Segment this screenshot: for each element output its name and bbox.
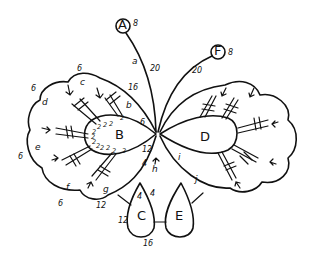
chain-c-count: 6	[77, 64, 82, 73]
chain-b-label: b	[126, 100, 132, 110]
svg-text:6: 6	[140, 118, 145, 127]
ring-c-count-2: 4	[150, 189, 155, 198]
ring-a-count: 8	[133, 19, 138, 28]
chain-g-label: g	[103, 184, 109, 194]
chain-d-count: 6	[31, 84, 36, 93]
chain-j-label: j	[193, 174, 198, 184]
svg-text:2: 2	[109, 120, 113, 128]
right-chain-cloud	[160, 82, 296, 192]
ring-f-label: F	[214, 43, 221, 58]
chain-i-label: i	[178, 152, 181, 162]
chain-h-label: h	[152, 164, 158, 174]
svg-text:2: 2	[112, 147, 116, 155]
chain-e-count: 6	[18, 152, 23, 161]
chain-f-count: 20	[192, 66, 202, 75]
chain-a-count: 20	[150, 64, 160, 73]
chain-e-label: e	[35, 142, 41, 152]
ring-e-label: E	[175, 208, 183, 223]
svg-text:2: 2	[100, 144, 104, 152]
diagram-canvas: A F B D C E 8 8 a 20 20 16 b 6 c 6 d 6 e…	[0, 0, 312, 258]
svg-text:2: 2	[97, 123, 101, 131]
ring-b-label: B	[115, 127, 124, 142]
chain-c-label: c	[80, 77, 85, 87]
ring-d-crosses	[202, 104, 261, 170]
svg-text:4: 4	[142, 159, 147, 168]
ring-c-count-3: 12	[118, 216, 128, 225]
ring-d-label: D	[200, 129, 210, 144]
chain-a-label: a	[132, 56, 138, 66]
tatting-diagram: A F B D C E 8 8 a 20 20 16 b 6 c 6 d 6 e…	[0, 0, 312, 258]
svg-text:12: 12	[142, 145, 152, 154]
connector-e-chain	[192, 193, 203, 203]
chain-d-label: d	[42, 97, 48, 107]
ring-a-label: A	[118, 17, 127, 32]
chain-f-count: 6	[58, 199, 63, 208]
ring-b-spokes	[56, 95, 122, 180]
ring-f-count: 8	[228, 48, 233, 57]
svg-text:2: 2	[120, 114, 124, 122]
chain-g-count: 12	[96, 201, 106, 210]
chain-b-count: 16	[128, 83, 138, 92]
ring-c-label: C	[137, 208, 146, 223]
ring-d-shape	[160, 116, 237, 153]
svg-text:2: 2	[103, 121, 107, 129]
ring-c-count-1: 4	[137, 192, 142, 201]
svg-text:2: 2	[106, 144, 110, 152]
svg-text:2: 2	[122, 147, 126, 155]
connector-c-chain	[118, 195, 131, 205]
ring-c-count-4: 16	[143, 239, 153, 248]
